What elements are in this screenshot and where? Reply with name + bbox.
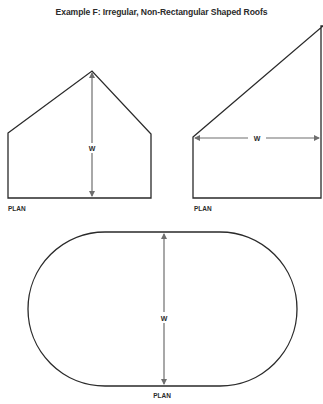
figure-pentagon: W PLAN	[8, 71, 151, 212]
figure-trapezoid: W PLAN	[193, 26, 323, 212]
roof-plans-diagram: W PLAN W PLAN W PLAN	[0, 0, 323, 404]
trapezoid-plan-label: PLAN	[194, 205, 212, 212]
pentagon-outline	[8, 71, 151, 198]
stadium-outline	[28, 232, 297, 386]
figure-stadium: W PLAN	[28, 232, 297, 399]
stadium-plan-label: PLAN	[153, 392, 171, 399]
trapezoid-outline	[193, 26, 323, 198]
pentagon-dimension-label: W	[89, 145, 96, 152]
trapezoid-dimension-label: W	[254, 135, 261, 142]
pentagon-plan-label: PLAN	[8, 205, 26, 212]
stadium-dimension-label: W	[161, 315, 168, 322]
